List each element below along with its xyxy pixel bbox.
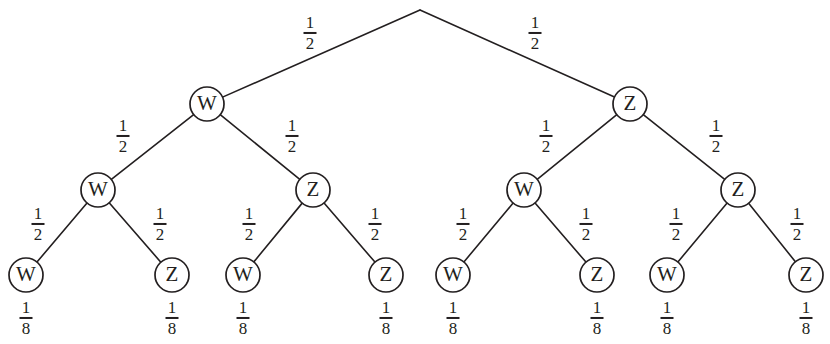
fraction-denominator: 2 <box>710 138 723 155</box>
tree-edge <box>324 203 375 262</box>
edge-probability-label: 12 <box>529 14 542 52</box>
fraction-numerator: 1 <box>670 205 683 222</box>
fraction-numerator: 1 <box>243 205 256 222</box>
tree-node-z: Z <box>369 258 403 292</box>
tree-edge <box>678 203 727 262</box>
node-label: W <box>657 262 677 286</box>
fraction-numerator: 1 <box>32 205 45 222</box>
edge-probability-label: 12 <box>540 117 553 155</box>
fraction-numerator: 1 <box>540 117 553 134</box>
node-label: Z <box>591 262 604 286</box>
leaf-probability-label: 18 <box>380 299 393 337</box>
fraction-numerator: 1 <box>286 117 299 134</box>
fraction-numerator: 1 <box>166 299 179 316</box>
tree-node-w: W <box>9 258 43 292</box>
edge-probability-label: 12 <box>580 205 593 243</box>
edge-probability-label: 12 <box>710 117 723 155</box>
tree-node-w: W <box>436 258 470 292</box>
fraction-numerator: 1 <box>800 299 813 316</box>
tree-edge <box>749 203 796 261</box>
fraction-denominator: 2 <box>117 138 130 155</box>
fraction-numerator: 1 <box>117 117 130 134</box>
fraction-numerator: 1 <box>447 299 460 316</box>
fraction-numerator: 1 <box>154 205 167 222</box>
edge-probability-label: 12 <box>154 205 167 243</box>
node-label: W <box>88 177 108 201</box>
tree-node-w: W <box>226 258 260 292</box>
edge-probability-label: 12 <box>791 205 804 243</box>
fraction-denominator: 2 <box>529 35 542 52</box>
tree-node-w: W <box>190 87 224 121</box>
fraction-denominator: 2 <box>369 226 382 243</box>
edge-probability-label: 12 <box>117 117 130 155</box>
fraction-numerator: 1 <box>457 205 470 222</box>
node-label: W <box>233 262 253 286</box>
tree-node-w: W <box>650 258 684 292</box>
fraction-numerator: 1 <box>591 299 604 316</box>
fraction-numerator: 1 <box>304 14 317 31</box>
leaf-probability-label: 18 <box>237 299 250 337</box>
fraction-denominator: 2 <box>791 226 804 243</box>
tree-node-z: Z <box>580 258 614 292</box>
edge-probability-label: 12 <box>369 205 382 243</box>
probability-tree-figure: { "figure": { "type": "binary-probabilit… <box>0 0 830 344</box>
fraction-numerator: 1 <box>580 205 593 222</box>
tree-edge <box>254 203 302 262</box>
edge-probability-label: 12 <box>670 205 683 243</box>
node-label: Z <box>800 262 813 286</box>
fraction-denominator: 8 <box>237 320 250 337</box>
fraction-denominator: 8 <box>800 320 813 337</box>
tree-node-z: Z <box>155 258 189 292</box>
node-label: W <box>443 262 463 286</box>
fraction-denominator: 2 <box>540 138 553 155</box>
fraction-denominator: 2 <box>32 226 45 243</box>
tree-edge <box>535 203 586 262</box>
leaf-probability-label: 18 <box>20 299 33 337</box>
fraction-numerator: 1 <box>791 205 804 222</box>
tree-nodes-group: WZWZWZWZWZWZWZ <box>9 87 823 292</box>
fraction-denominator: 2 <box>154 226 167 243</box>
fraction-numerator: 1 <box>237 299 250 316</box>
fraction-numerator: 1 <box>661 299 674 316</box>
fraction-denominator: 8 <box>20 320 33 337</box>
fraction-denominator: 8 <box>661 320 674 337</box>
fraction-denominator: 2 <box>580 226 593 243</box>
fraction-denominator: 2 <box>457 226 470 243</box>
tree-diagram-canvas: WZWZWZWZWZWZWZ <box>0 0 830 344</box>
node-label: Z <box>166 262 179 286</box>
tree-node-w: W <box>507 173 541 207</box>
tree-edge <box>420 10 614 97</box>
tree-node-z: Z <box>789 258 823 292</box>
fraction-denominator: 2 <box>304 35 317 52</box>
node-label: Z <box>380 262 393 286</box>
node-label: W <box>514 177 534 201</box>
node-label: W <box>16 262 36 286</box>
node-label: Z <box>307 177 320 201</box>
tree-node-z: Z <box>721 173 755 207</box>
fraction-denominator: 8 <box>591 320 604 337</box>
fraction-denominator: 2 <box>286 138 299 155</box>
fraction-numerator: 1 <box>710 117 723 134</box>
fraction-denominator: 8 <box>380 320 393 337</box>
leaf-probability-label: 18 <box>166 299 179 337</box>
tree-edge <box>464 203 513 262</box>
edge-probability-label: 12 <box>457 205 470 243</box>
edge-probability-label: 12 <box>286 117 299 155</box>
tree-node-z: Z <box>296 173 330 207</box>
leaf-probability-label: 18 <box>661 299 674 337</box>
tree-node-z: Z <box>613 87 647 121</box>
leaf-probability-label: 18 <box>800 299 813 337</box>
node-label: W <box>197 91 217 115</box>
edge-probability-label: 12 <box>304 14 317 52</box>
fraction-denominator: 8 <box>447 320 460 337</box>
fraction-numerator: 1 <box>380 299 393 316</box>
node-label: Z <box>624 91 637 115</box>
edge-probability-label: 12 <box>32 205 45 243</box>
tree-edge <box>223 10 420 97</box>
tree-node-w: W <box>81 173 115 207</box>
leaf-probability-label: 18 <box>591 299 604 337</box>
fraction-numerator: 1 <box>369 205 382 222</box>
leaf-probability-label: 18 <box>447 299 460 337</box>
fraction-denominator: 8 <box>166 320 179 337</box>
fraction-numerator: 1 <box>20 299 33 316</box>
